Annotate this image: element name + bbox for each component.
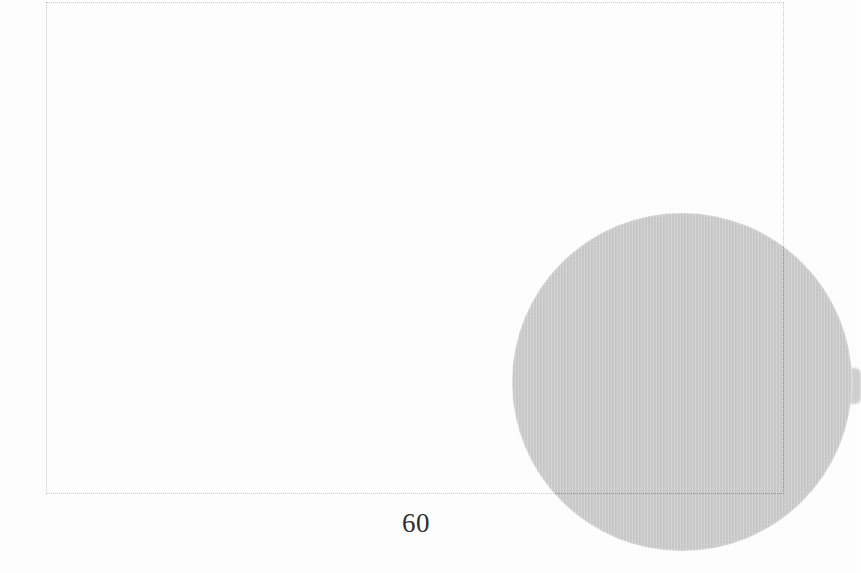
- grey-lens-disc: [512, 213, 852, 551]
- scanned-page: 60: [0, 0, 861, 573]
- page-number: 60: [366, 510, 466, 537]
